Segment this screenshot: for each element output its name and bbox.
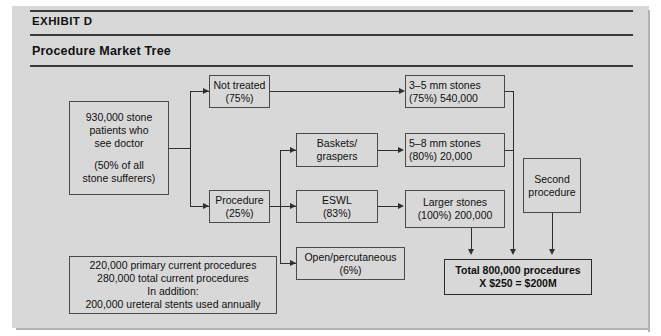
not-treated-line2: (75%): [225, 92, 253, 105]
not-treated-line1: Not treated: [214, 79, 266, 92]
panel-shadow-right: [648, 10, 650, 332]
stone-patients-line3: see doctor: [94, 137, 143, 150]
header-rule-bottom: [30, 65, 633, 67]
second-procedure-line2: procedure: [528, 186, 575, 199]
eswl-line2: (83%): [323, 207, 351, 220]
node-second-procedure: Second procedure: [523, 158, 581, 213]
procedure-line2: (25%): [225, 207, 253, 220]
footnote-line3: In addition:: [147, 285, 198, 298]
stone-patients-line5: stone sufferers): [83, 172, 156, 185]
arrow-eswl-to-larger: [398, 203, 404, 209]
connector-right-collector: [513, 91, 514, 253]
node-open-percutaneous: Open/percutaneous (6%): [296, 247, 405, 280]
larger-stones-line1: Larger stones: [423, 196, 487, 209]
connector-root-out: [169, 148, 191, 149]
header-rule-top: [30, 10, 633, 12]
stones-5-8-line1: 5–8 mm stones: [409, 137, 481, 150]
exhibit-label: EXHIBIT D: [32, 15, 92, 27]
procedure-line1: Procedure: [215, 194, 263, 207]
arrow-second-to-total: [549, 249, 555, 255]
exhibit-screenshot: EXHIBIT D Procedure Market Tree 930,000 …: [0, 0, 661, 336]
arrow-larger-to-total: [468, 249, 474, 255]
connector-not-treated-to-3-5: [270, 91, 404, 92]
node-stones-3-5mm: 3–5 mm stones (75%) 540,000: [405, 75, 505, 108]
node-stone-patients: 930,000 stone patients who see doctor (5…: [69, 101, 169, 195]
stone-patients-line2: patients who: [90, 124, 149, 137]
connector-second-to-total: [552, 213, 553, 253]
arrow-collector-to-total: [510, 249, 516, 255]
node-footnote-summary: 220,000 primary current procedures 280,0…: [69, 256, 277, 314]
total-line2: X $250 = $200M: [479, 277, 556, 290]
stones-3-5-line2: (75%) 540,000: [409, 92, 478, 105]
stones-3-5-line1: 3–5 mm stones: [409, 79, 481, 92]
footnote-line2: 280,000 total current procedures: [97, 272, 249, 285]
open-perc-line2: (6%): [339, 264, 361, 277]
node-procedure: Procedure (25%): [209, 190, 270, 223]
total-line1: Total 800,000 procedures: [455, 264, 580, 277]
footnote-line1: 220,000 primary current procedures: [90, 259, 257, 272]
panel-shadow-bottom: [16, 328, 650, 330]
node-eswl: ESWL (83%): [296, 190, 378, 223]
eswl-line1: ESWL: [322, 194, 352, 207]
footnote-line4: 200,000 ureteral stents used annually: [85, 298, 260, 311]
open-perc-line1: Open/percutaneous: [304, 251, 396, 264]
stone-patients-line1: 930,000 stone: [86, 111, 153, 124]
node-stones-5-8mm: 5–8 mm stones (80%) 20,000: [405, 133, 505, 167]
node-total-procedures: Total 800,000 procedures X $250 = $200M: [444, 259, 592, 295]
node-baskets-graspers: Baskets/ graspers: [296, 133, 378, 167]
baskets-line1: Baskets/: [317, 137, 357, 150]
second-procedure-line1: Second: [534, 173, 570, 186]
stones-5-8-line2: (80%) 20,000: [409, 150, 472, 163]
baskets-line2: graspers: [317, 150, 358, 163]
page-title: Procedure Market Tree: [32, 44, 171, 58]
larger-stones-line2: (100%) 200,000: [418, 209, 493, 222]
arrow-baskets-to-5-8: [398, 147, 404, 153]
connector-root-split: [190, 91, 191, 206]
stone-patients-line4: (50% of all: [94, 159, 144, 172]
connector-5-8-out: [505, 150, 514, 151]
node-larger-stones: Larger stones (100%) 200,000: [405, 190, 505, 228]
header-rule-middle: [30, 34, 633, 36]
node-not-treated: Not treated (75%): [209, 75, 270, 108]
